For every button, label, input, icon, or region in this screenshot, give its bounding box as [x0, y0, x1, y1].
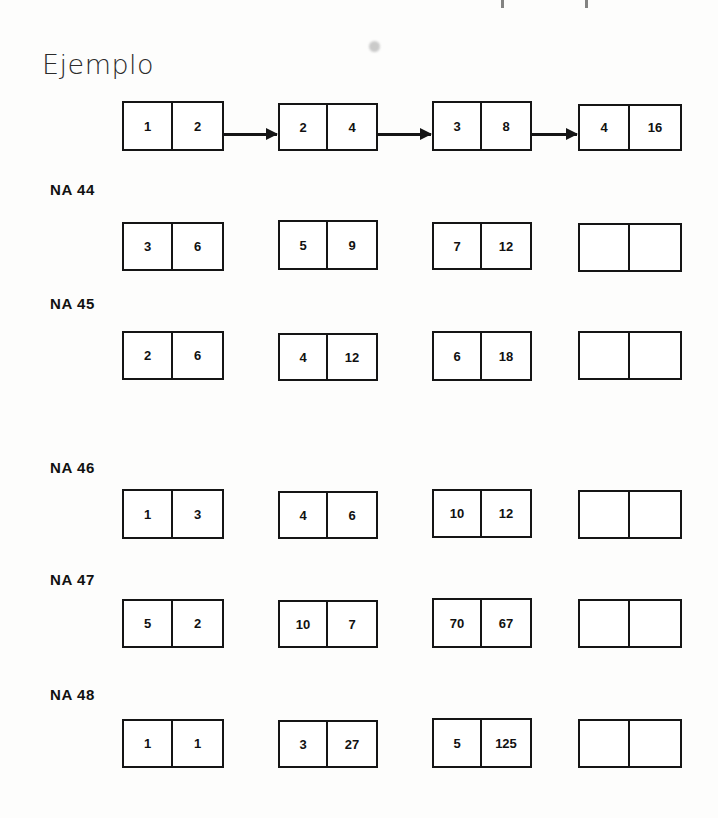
na-44-pair-box-1: 36 [122, 222, 224, 271]
example-pair-1-output-cell: 2 [173, 103, 222, 149]
na-44-pair-box-4[interactable] [578, 223, 682, 272]
example-pair-1-input-cell: 1 [124, 103, 173, 149]
na-48-pair-2-input-cell: 3 [280, 722, 328, 766]
na-46-pair-box-2: 46 [278, 491, 378, 539]
na-47-pair-3-input-cell: 70 [434, 600, 482, 646]
na-47-pair-2-input-cell: 10 [280, 602, 328, 646]
na-46-pair-4-output-cell[interactable] [630, 492, 680, 537]
na-47-pair-1-input-cell: 5 [124, 601, 173, 646]
na-47-pair-box-2: 107 [278, 600, 378, 648]
na-46-pair-box-1: 13 [122, 489, 224, 539]
example-pair-box-2: 24 [278, 103, 378, 151]
row-label-na-48: NA 48 [50, 686, 95, 703]
na-47-pair-2-output-cell: 7 [328, 602, 376, 646]
scan-artifact-descender-2 [585, 0, 588, 8]
na-45-pair-4-output-cell[interactable] [630, 333, 680, 378]
na-46-pair-2-input-cell: 4 [280, 493, 328, 537]
na-46-pair-box-3: 1012 [432, 489, 532, 538]
na-47-pair-4-output-cell[interactable] [630, 601, 680, 646]
na-48-pair-box-2: 327 [278, 720, 378, 768]
page-title: Ejemplo [42, 49, 154, 80]
na-48-pair-box-1: 11 [122, 719, 224, 768]
na-45-pair-4-input-cell[interactable] [580, 333, 630, 378]
example-pair-box-3: 38 [432, 101, 532, 151]
na-45-pair-2-output-cell: 12 [328, 335, 376, 379]
example-pair-4-output-cell: 16 [630, 106, 680, 149]
row-label-na-47: NA 47 [50, 571, 95, 588]
row-label-na-45: NA 45 [50, 295, 95, 312]
na-45-pair-box-2: 412 [278, 333, 378, 381]
na-45-pair-2-input-cell: 4 [280, 335, 328, 379]
na-47-pair-box-4[interactable] [578, 599, 682, 648]
example-pair-box-4: 416 [578, 104, 682, 151]
na-46-pair-4-input-cell[interactable] [580, 492, 630, 537]
arrow-icon-1 [224, 133, 277, 136]
na-48-pair-box-4[interactable] [578, 719, 682, 768]
scan-artifact-descender-1 [501, 0, 504, 8]
na-46-pair-3-output-cell: 12 [482, 491, 530, 536]
na-47-pair-3-output-cell: 67 [482, 600, 530, 646]
na-45-pair-3-input-cell: 6 [434, 333, 482, 379]
na-47-pair-box-1: 52 [122, 599, 224, 648]
na-45-pair-box-4[interactable] [578, 331, 682, 380]
na-46-pair-2-output-cell: 6 [328, 493, 376, 537]
na-44-pair-1-input-cell: 3 [124, 224, 173, 269]
na-46-pair-3-input-cell: 10 [434, 491, 482, 536]
na-45-pair-1-input-cell: 2 [124, 333, 173, 378]
example-pair-3-output-cell: 8 [482, 103, 530, 149]
na-47-pair-box-3: 7067 [432, 598, 532, 648]
na-48-pair-1-output-cell: 1 [173, 721, 222, 766]
ink-smudge [369, 41, 380, 52]
na-44-pair-3-input-cell: 7 [434, 224, 482, 268]
worksheet-page: Ejemplo 122438416 NA 443659712NA 4526412… [0, 0, 718, 818]
na-48-pair-box-3: 5125 [432, 718, 532, 768]
na-46-pair-1-output-cell: 3 [173, 491, 222, 537]
na-44-pair-4-output-cell[interactable] [630, 225, 680, 270]
example-pair-2-output-cell: 4 [328, 105, 376, 149]
row-label-na-44: NA 44 [50, 181, 95, 198]
na-44-pair-3-output-cell: 12 [482, 224, 530, 268]
na-48-pair-4-input-cell[interactable] [580, 721, 630, 766]
na-45-pair-3-output-cell: 18 [482, 333, 530, 379]
row-label-na-46: NA 46 [50, 459, 95, 476]
na-44-pair-2-input-cell: 5 [280, 222, 328, 268]
na-48-pair-1-input-cell: 1 [124, 721, 173, 766]
na-44-pair-2-output-cell: 9 [328, 222, 376, 268]
arrow-icon-3 [532, 133, 577, 136]
arrow-icon-2 [378, 133, 431, 136]
na-45-pair-1-output-cell: 6 [173, 333, 222, 378]
na-46-pair-1-input-cell: 1 [124, 491, 173, 537]
example-pair-2-input-cell: 2 [280, 105, 328, 149]
na-45-pair-box-3: 618 [432, 331, 532, 381]
na-48-pair-3-input-cell: 5 [434, 720, 482, 766]
na-44-pair-1-output-cell: 6 [173, 224, 222, 269]
na-47-pair-4-input-cell[interactable] [580, 601, 630, 646]
na-47-pair-1-output-cell: 2 [173, 601, 222, 646]
example-pair-box-1: 12 [122, 101, 224, 151]
na-46-pair-box-4[interactable] [578, 490, 682, 539]
example-pair-3-input-cell: 3 [434, 103, 482, 149]
na-48-pair-4-output-cell[interactable] [630, 721, 680, 766]
na-45-pair-box-1: 26 [122, 331, 224, 380]
na-48-pair-3-output-cell: 125 [482, 720, 530, 766]
na-48-pair-2-output-cell: 27 [328, 722, 376, 766]
na-44-pair-4-input-cell[interactable] [580, 225, 630, 270]
example-pair-4-input-cell: 4 [580, 106, 630, 149]
na-44-pair-box-3: 712 [432, 222, 532, 270]
na-44-pair-box-2: 59 [278, 220, 378, 270]
